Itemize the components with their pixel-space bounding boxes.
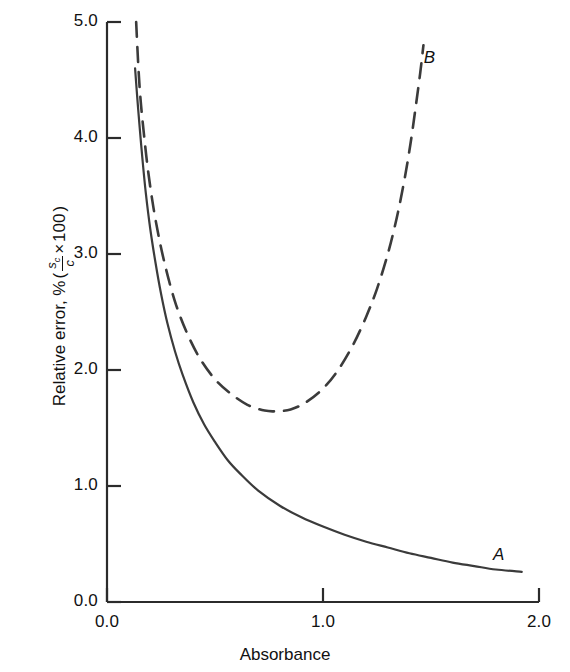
y-tick-marks [107, 22, 121, 602]
chart-figure: 0.01.02.03.04.05.0 0.01.02.0 AB Relative… [0, 0, 570, 672]
data-series-group [135, 22, 522, 572]
y-tick-label: 4.0 [50, 127, 98, 147]
axes-group [107, 22, 539, 602]
x-tick-label: 1.0 [293, 612, 353, 632]
series-curve-b [136, 22, 423, 411]
x-tick-label: 2.0 [509, 612, 569, 632]
x-axis-label: Absorbance [0, 645, 570, 665]
curve-label-b: B [424, 48, 435, 68]
curve-label-a: A [493, 545, 504, 565]
plot-canvas [0, 0, 570, 672]
x-tick-marks [107, 588, 539, 602]
series-curve-a [135, 68, 522, 571]
y-tick-label: 2.0 [50, 359, 98, 379]
y-tick-label: 0.0 [50, 591, 98, 611]
y-tick-label: 3.0 [50, 243, 98, 263]
y-tick-label: 5.0 [50, 11, 98, 31]
x-tick-label: 0.0 [77, 612, 137, 632]
y-tick-label: 1.0 [50, 475, 98, 495]
